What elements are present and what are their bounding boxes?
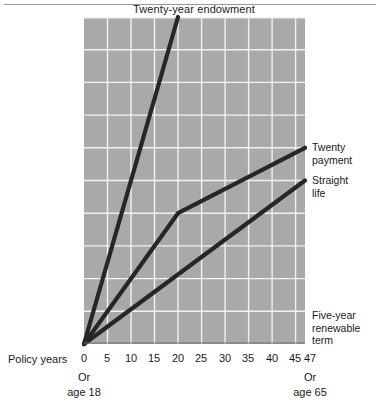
annotation-twenty-payment: Twenty payment [312,141,352,166]
annotation-twenty-payment-line2: payment [312,154,352,167]
x-tick-30: 30 [215,353,235,364]
right-age-value: age 65 [284,386,336,399]
series-line-twenty-payment [84,148,305,344]
x-tick-25: 25 [191,353,211,364]
y-axis-labels: $1000 900 800 700 600 500 400 300 200 10… [0,0,80,406]
annotation-twenty-payment-line1: Twenty [312,141,352,154]
data-series [84,17,305,344]
x-tick-35: 35 [238,353,258,364]
x-tick-47: 47 [300,353,320,364]
plot-area [84,17,305,344]
x-tick-15: 15 [144,353,164,364]
annotation-straight-life-line2: life [312,187,348,200]
annotation-five-year-renewable-term: Five-year renewable term [312,309,360,347]
annotation-five-year-line1: Five-year [312,309,360,322]
annotation-straight-life: Straight life [312,174,348,199]
series-line-twenty-year-endowment [84,17,178,344]
left-age-value: age 18 [58,386,110,399]
x-tick-20: 20 [168,353,188,364]
left-age-or: Or [64,371,104,384]
x-tick-40: 40 [262,353,282,364]
chart-title: Twenty-year endowment [82,2,306,16]
annotation-straight-life-line1: Straight [312,174,348,187]
x-tick-10: 10 [121,353,141,364]
right-age-or: Or [290,371,330,384]
x-tick-5: 5 [97,353,117,364]
x-axis-caption: Policy years [8,353,67,366]
x-tick-0: 0 [74,353,94,364]
annotation-five-year-line3: term [312,334,360,347]
annotation-five-year-line2: renewable [312,322,360,335]
